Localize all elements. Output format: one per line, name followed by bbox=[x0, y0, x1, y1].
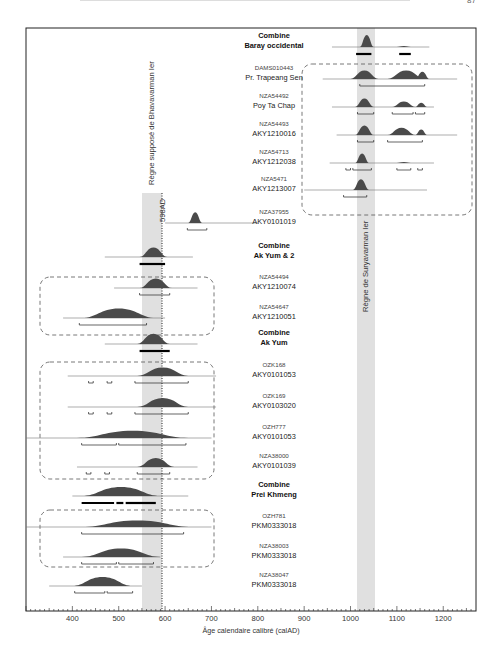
row-label-top: OZK169 bbox=[262, 392, 286, 399]
row-label-top: Combine bbox=[258, 31, 290, 40]
row-label-bottom: AKY1213007 bbox=[252, 184, 296, 193]
range-bracket bbox=[75, 591, 105, 593]
row-nza54713: NZA54713AKY1212038 bbox=[252, 148, 434, 170]
probability-distribution bbox=[392, 102, 415, 107]
range-bracket bbox=[392, 112, 413, 114]
range-bracket bbox=[105, 472, 110, 474]
row-label-top: NZA37955 bbox=[259, 208, 289, 215]
probability-distribution bbox=[188, 212, 202, 223]
range-bracket bbox=[82, 562, 117, 564]
row-label-bottom: AKY1210016 bbox=[252, 129, 296, 138]
row-label-top: NZA54494 bbox=[259, 273, 289, 280]
row-ozk169: OZK169AKY0103020 bbox=[68, 392, 296, 414]
range-bracket bbox=[418, 168, 423, 170]
range-bracket bbox=[397, 168, 411, 170]
x-tick-label: 1000 bbox=[342, 614, 359, 623]
group-box-akyum bbox=[40, 362, 214, 479]
row-label-bottom: AKY0101019 bbox=[252, 217, 296, 226]
row-label-bottom: Ak Yum bbox=[261, 338, 288, 347]
x-tick-label: 900 bbox=[298, 614, 311, 623]
row-label-bottom: AKY0101053 bbox=[252, 432, 296, 441]
range-bracket bbox=[82, 443, 117, 445]
probability-distribution bbox=[415, 103, 427, 107]
row-baray: CombineBaray occidental bbox=[244, 31, 429, 54]
range-bracket bbox=[89, 381, 94, 383]
range-bracket bbox=[346, 168, 351, 170]
row-label-top: NZA38000 bbox=[259, 452, 289, 459]
row-label-bottom: AKY0101053 bbox=[252, 370, 296, 379]
row-label-bottom: PKM0333018 bbox=[252, 551, 297, 560]
row-label-bottom: PKM0333018 bbox=[252, 580, 297, 589]
row-nza54493: NZA54493AKY1210016 bbox=[252, 120, 457, 142]
probability-distribution bbox=[77, 431, 188, 438]
row-label-bottom: Baray occidental bbox=[244, 41, 303, 50]
range-bracket bbox=[107, 412, 112, 414]
x-tick-label: 1200 bbox=[435, 614, 452, 623]
row-akyum2: CombineAk Yum & 2 bbox=[105, 241, 294, 264]
range-bracket bbox=[86, 472, 91, 474]
row-label-top: NZA54492 bbox=[259, 92, 289, 99]
group-box-right bbox=[302, 64, 472, 215]
row-nza5471: NZA5471AKY1213007 bbox=[252, 175, 427, 197]
probability-distribution bbox=[388, 128, 416, 135]
row-akyum: CombineAk Yum bbox=[105, 328, 290, 351]
x-tick-label: 400 bbox=[66, 614, 79, 623]
x-tick-label: 500 bbox=[112, 614, 125, 623]
probability-distribution bbox=[72, 577, 132, 586]
row-nza54494: NZA54494AKY1210074 bbox=[114, 273, 296, 295]
probability-distribution bbox=[415, 72, 429, 79]
range-bracket bbox=[89, 412, 94, 414]
range-bracket bbox=[79, 323, 146, 325]
probability-distribution bbox=[82, 520, 193, 527]
group-box-preikhmeng bbox=[40, 510, 214, 567]
row-label-top: Combine bbox=[258, 480, 290, 489]
probability-distribution bbox=[397, 162, 411, 163]
range-bracket bbox=[107, 381, 112, 383]
probability-distribution bbox=[397, 46, 411, 47]
row-label-top: NZA5471 bbox=[261, 175, 288, 182]
598ad-label: 598AD bbox=[158, 198, 167, 222]
row-label-top: OZH777 bbox=[262, 423, 286, 430]
row-label-top: NZA38003 bbox=[259, 542, 289, 549]
row-label-top: OZH781 bbox=[262, 512, 286, 519]
row-label-bottom: PKM0333018 bbox=[252, 521, 297, 530]
row-label-top: NZA54493 bbox=[259, 120, 289, 127]
row-label-bottom: AKY0103020 bbox=[252, 401, 296, 410]
range-bracket bbox=[82, 532, 184, 534]
radiocarbon-chart: 598AD Règne supposé de Bhavavarman Ier R… bbox=[0, 0, 498, 661]
row-nza54647: NZA54647AKY1210051 bbox=[63, 303, 296, 325]
row-ozk168: OZK168AKY0101053 bbox=[68, 361, 296, 383]
row-nza38000: NZA38000AKY0101039 bbox=[77, 452, 296, 474]
row-preikhmeng: CombinePrei Khmeng bbox=[72, 480, 297, 503]
row-label-bottom: AKY1212038 bbox=[252, 157, 296, 166]
row-label-bottom: Ak Yum & 2 bbox=[254, 251, 295, 260]
x-tick-label: 800 bbox=[251, 614, 264, 623]
row-nza37955: NZA37955AKY0101019 bbox=[165, 208, 296, 230]
row-label-top: Combine bbox=[258, 328, 290, 337]
bhavavarman-label: Règne supposé de Bhavavarman Ier bbox=[147, 61, 156, 185]
group-box-akyum2 bbox=[40, 277, 214, 335]
suryavarman-label: Règne de Suryavarman Ier bbox=[361, 220, 370, 312]
row-label-top: NZA54647 bbox=[259, 303, 289, 310]
x-tick-label: 600 bbox=[159, 614, 172, 623]
range-bracket bbox=[388, 140, 423, 142]
row-label-bottom: AKY1210051 bbox=[252, 312, 296, 321]
range-bracket bbox=[107, 591, 132, 593]
x-tick-label: 700 bbox=[205, 614, 218, 623]
row-label-bottom: AKY0101039 bbox=[252, 461, 296, 470]
row-label-bottom: Poy Ta Chap bbox=[253, 101, 295, 110]
range-bracket bbox=[415, 112, 424, 114]
row-label-top: NZA54713 bbox=[259, 148, 289, 155]
row-label-top: Combine bbox=[258, 241, 290, 250]
row-label-bottom: Pr. Trapeang Sen bbox=[245, 73, 303, 82]
row-label-top: NZA38047 bbox=[259, 571, 289, 578]
x-axis-title: Âge calendaire calibré (calAD) bbox=[202, 626, 299, 635]
suryavarman-band bbox=[357, 28, 375, 611]
row-label-top: DAMS010443 bbox=[255, 64, 294, 71]
range-bracket bbox=[187, 228, 206, 230]
row-label-bottom: AKY1210074 bbox=[252, 282, 296, 291]
row-label-top: OZK168 bbox=[262, 361, 286, 368]
probability-distribution bbox=[415, 130, 427, 135]
row-nza38003: NZA38003PKM0333018 bbox=[63, 542, 296, 564]
row-nza54492: NZA54492Poy Ta Chap bbox=[253, 92, 434, 114]
